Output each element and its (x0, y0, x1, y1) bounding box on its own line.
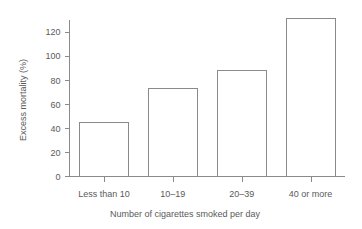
y-tick-label: 80 (50, 76, 60, 86)
y-axis-title: Excess mortality (%) (18, 59, 28, 141)
y-tick-label: 20 (50, 148, 60, 158)
y-axis-ticks: 020406080100120 (45, 27, 69, 181)
x-axis-title: Number of cigarettes smoked per day (110, 209, 261, 219)
x-tick-label: Less than 10 (78, 189, 130, 199)
bar (80, 122, 129, 176)
bar (287, 19, 336, 177)
bar (149, 89, 198, 177)
x-axis-ticks: Less than 1010–1920–3940 or more (78, 177, 332, 199)
bar-series (80, 19, 336, 177)
x-tick-label: 40 or more (289, 189, 333, 199)
y-tick-label: 60 (50, 100, 60, 110)
bar (218, 71, 267, 177)
y-tick-label: 100 (45, 51, 60, 61)
y-tick-label: 40 (50, 124, 60, 134)
bar-chart: Excess mortality (%) 020406080100120 Les… (0, 0, 362, 229)
x-tick-label: 10–19 (160, 189, 185, 199)
y-tick-label: 120 (45, 27, 60, 37)
chart-container: Excess mortality (%) 020406080100120 Les… (0, 0, 362, 229)
y-tick-label: 0 (55, 172, 60, 182)
x-tick-label: 20–39 (229, 189, 254, 199)
